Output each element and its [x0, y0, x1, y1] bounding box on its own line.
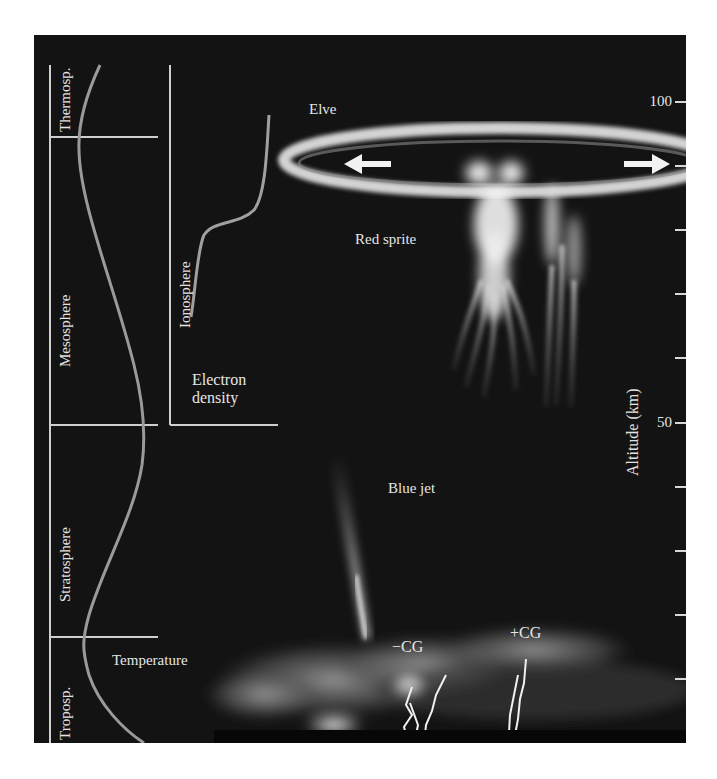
thunderstorm: [204, 626, 686, 737]
neg-cg-label: −CG: [392, 638, 423, 656]
electron-density-line2: density: [192, 389, 246, 407]
blue-jet: [328, 455, 370, 639]
electron-density-label: Electron density: [192, 371, 246, 406]
thermosphere-label: Thermosp.: [58, 67, 73, 132]
ground: [214, 730, 686, 743]
red-sprite-label: Red sprite: [355, 231, 416, 248]
electron-density-curve: [191, 115, 269, 317]
tick-label-100: 100: [632, 93, 672, 110]
temperature-label: Temperature: [112, 652, 188, 669]
blue-jet-label: Blue jet: [388, 480, 435, 497]
diagram-graphics: [34, 35, 686, 743]
altitude-axis-title: Altitude (km): [625, 388, 641, 476]
atmosphere-diagram: Thermosp. Mesosphere Stratosphere Tropos…: [34, 35, 686, 743]
mesosphere-label: Mesosphere: [58, 295, 73, 367]
troposphere-label: Troposp.: [58, 687, 73, 740]
temperature-curve: [79, 65, 144, 743]
altitude-axis: [675, 102, 686, 679]
ionosphere-label: Ionosphere: [178, 261, 193, 328]
stratosphere-label: Stratosphere: [58, 527, 73, 602]
pos-cg-label: +CG: [510, 624, 541, 642]
electron-density-line1: Electron: [192, 371, 246, 389]
elve-label: Elve: [309, 101, 337, 118]
